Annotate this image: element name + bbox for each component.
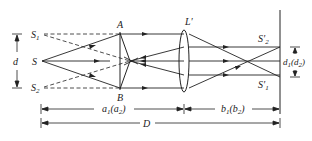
virtual-source-1-label: S1 xyxy=(31,29,40,42)
image-1-label: S′1 xyxy=(258,79,269,92)
image-distance-label: b1(b2) xyxy=(221,103,245,116)
source-label: S xyxy=(32,56,37,67)
prism-bottom-label: B xyxy=(117,92,123,103)
image-separation-label: d1(d2) xyxy=(283,57,305,69)
prism-top-label: A xyxy=(116,19,124,30)
object-distance-label: a1(a2) xyxy=(102,103,126,116)
biprism-diagram: d S1 S S2 A B xyxy=(0,0,312,141)
total-distance-dimension xyxy=(41,118,280,128)
biprism xyxy=(120,32,130,90)
source-rays xyxy=(42,34,120,88)
image-2-label: S′2 xyxy=(258,33,269,46)
lens-label: L′ xyxy=(184,16,194,27)
separation-label: d xyxy=(13,56,19,67)
total-distance-label: D xyxy=(142,118,151,129)
virtual-source-2-label: S2 xyxy=(31,82,40,95)
